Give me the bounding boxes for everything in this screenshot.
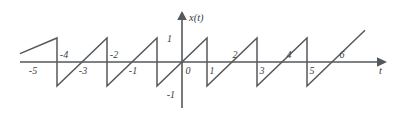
x-tick-label-minus-5: -5	[29, 65, 37, 76]
x-tick-label-4: 4	[287, 49, 292, 60]
x-tick-label-3: 3	[259, 65, 265, 76]
x-tick-label-minus-4: -4	[60, 49, 68, 60]
x-tick-label-zero: 0	[186, 65, 191, 76]
x-tick-label-minus-3: -3	[79, 65, 87, 76]
x-tick-label-minus-2: -2	[110, 49, 118, 60]
y-axis-label: x(t)	[188, 12, 204, 24]
sawtooth-waveform	[20, 30, 365, 86]
waveform-figure: x(t) t 1 -1 -5 -3 -1 0 1 3 5 -4 -2 2 4 6	[0, 0, 394, 125]
x-axis-label: t	[379, 65, 383, 76]
x-tick-label-1: 1	[210, 65, 215, 76]
x-tick-label-6: 6	[340, 49, 345, 60]
x-tick-label-2: 2	[233, 49, 238, 60]
x-tick-label-5: 5	[310, 65, 315, 76]
y-axis-arrowhead	[177, 11, 187, 20]
y-tick-label-negative-one: -1	[167, 89, 175, 100]
sawtooth-plot: x(t) t 1 -1 -5 -3 -1 0 1 3 5 -4 -2 2 4 6	[0, 0, 394, 125]
x-tick-label-minus-1: -1	[129, 65, 137, 76]
y-tick-label-positive-one: 1	[167, 33, 172, 44]
